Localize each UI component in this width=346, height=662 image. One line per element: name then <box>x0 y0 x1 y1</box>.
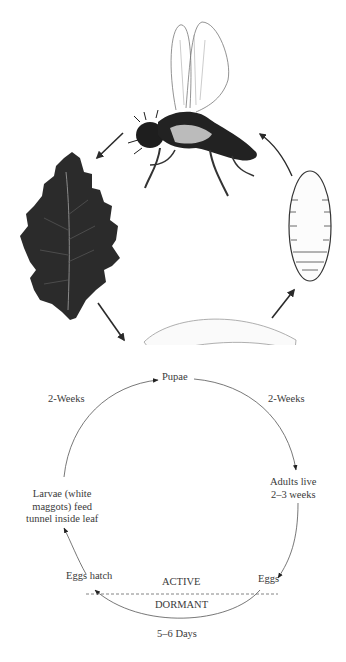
duration-pupae-to-adults: 2-Weeks <box>268 393 304 406</box>
zone-dormant: DORMANT <box>155 599 208 612</box>
pupa-icon <box>289 171 331 281</box>
adult-fly-icon <box>128 22 257 196</box>
arrow-pupa-to-adult <box>260 134 292 176</box>
node-adults: Adults live 2–3 weeks <box>270 476 316 501</box>
arrow-larva-to-pupa <box>272 290 294 318</box>
life-cycle-illustration <box>0 0 346 345</box>
duration-larvae-to-pupae: 2-Weeks <box>48 393 84 406</box>
arrow-adults-to-eggs <box>278 503 298 578</box>
arrow-leaf-to-larva <box>98 303 124 340</box>
mined-leaf-icon <box>20 152 120 320</box>
larva-icon <box>144 319 296 345</box>
zone-active: ACTIVE <box>162 576 201 589</box>
arrow-hatch-to-larvae <box>64 528 86 574</box>
node-larvae: Larvae (white maggots) feed tunnel insid… <box>26 488 98 526</box>
node-eggs: Eggs <box>258 573 279 586</box>
node-eggs-hatch: Eggs hatch <box>66 570 112 583</box>
arrow-adult-to-leaf <box>97 133 123 158</box>
node-pupae: Pupae <box>162 371 188 384</box>
duration-eggs-to-hatch: 5–6 Days <box>157 628 197 641</box>
